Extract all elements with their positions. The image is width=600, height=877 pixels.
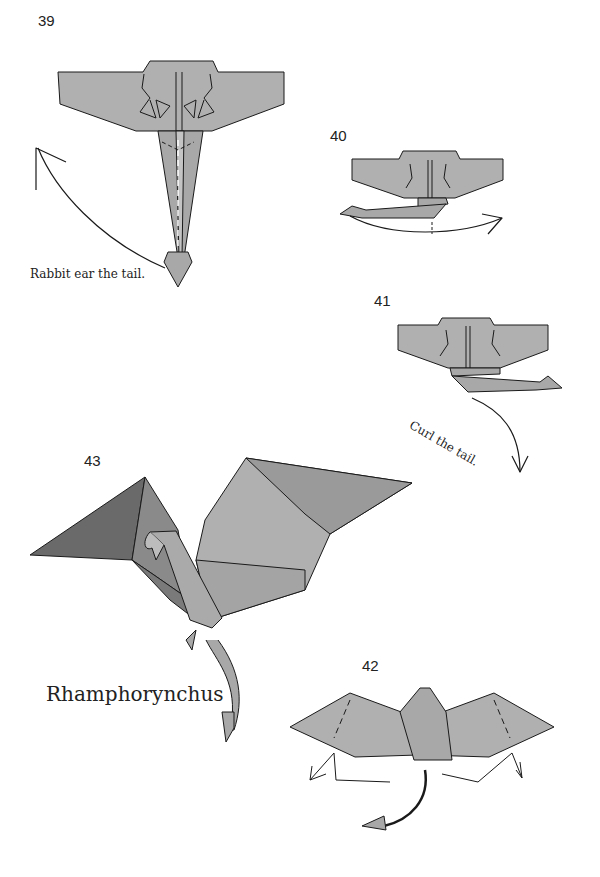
step-43-number: 43: [84, 452, 101, 469]
step-42-figure: [290, 688, 554, 830]
diagram-canvas: [0, 0, 600, 877]
step-41-figure: [398, 318, 562, 472]
step-39-number: 39: [38, 12, 55, 29]
step-40-figure: [340, 151, 503, 234]
step-39-instruction: Rabbit ear the tail.: [30, 267, 145, 281]
step-40-number: 40: [330, 127, 347, 144]
model-name: Rhamphorynchus: [46, 682, 224, 706]
step-42-number: 42: [362, 657, 379, 674]
step-39-figure: [36, 61, 284, 287]
step-41-number: 41: [374, 292, 391, 309]
